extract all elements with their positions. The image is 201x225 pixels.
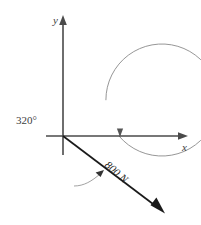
force-label-leader-group <box>74 170 104 186</box>
angle-arc-group <box>106 44 201 156</box>
y-axis-label: y <box>52 14 58 26</box>
diagram-canvas: y x 320° 800 N <box>0 0 201 225</box>
angle-label: 320° <box>16 114 37 126</box>
force-label-leader-arrowhead <box>96 170 104 177</box>
force-vector-diagram: y x 320° 800 N <box>0 0 201 225</box>
y-axis-group <box>59 15 67 155</box>
force-vector-arrowhead <box>151 197 166 213</box>
x-axis-arrowhead <box>178 132 188 139</box>
x-axis-label: x <box>181 141 187 153</box>
force-magnitude-label: 800 N <box>103 158 131 185</box>
force-label-leader-line <box>74 174 100 186</box>
angle-arc <box>106 44 201 156</box>
y-axis-arrowhead <box>59 15 67 25</box>
